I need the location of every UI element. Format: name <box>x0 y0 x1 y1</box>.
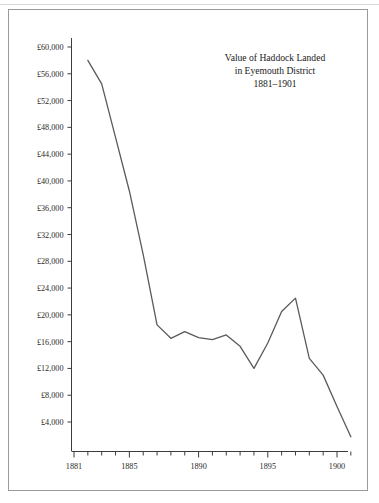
y-axis-tick-label: £28,000 <box>37 257 64 266</box>
y-axis-tick-label: £44,000 <box>37 150 64 159</box>
y-axis-tick-mark-group <box>68 47 72 422</box>
y-axis-tick-label: £12,000 <box>37 364 64 373</box>
x-axis-tick-label: 1885 <box>121 462 137 471</box>
y-axis-tick-label: £56,000 <box>37 70 64 79</box>
figure-root: £4,000£8,000£12,000£16,000£20,000£24,000… <box>0 0 379 503</box>
x-axis-tick-mark-group <box>74 452 351 458</box>
y-axis-tick-label: £20,000 <box>37 311 64 320</box>
x-axis-tick-label: 1890 <box>190 462 206 471</box>
chart-title: Value of Haddock Landed in Eyemouth Dist… <box>225 52 326 89</box>
y-axis-tick-label: £52,000 <box>37 97 64 106</box>
x-axis-tick-label-group: 18811885189018951900 <box>66 462 345 471</box>
y-axis-tick-label: £36,000 <box>37 204 64 213</box>
y-axis-tick-label: £60,000 <box>37 43 64 52</box>
x-axis-tick-label: 1881 <box>66 462 82 471</box>
x-axis-tick-label: 1900 <box>329 462 345 471</box>
haddock-value-data-line <box>88 60 351 436</box>
y-axis-tick-label: £48,000 <box>37 123 64 132</box>
y-axis-tick-label: £40,000 <box>37 177 64 186</box>
x-axis-tick-label: 1895 <box>260 462 276 471</box>
chart-title-line-1: Value of Haddock Landed <box>225 52 326 63</box>
chart-title-line-3: 1881–1901 <box>253 78 296 89</box>
haddock-value-line-chart: £4,000£8,000£12,000£16,000£20,000£24,000… <box>0 0 379 503</box>
y-axis-tick-label: £24,000 <box>37 284 64 293</box>
y-axis-tick-label: £16,000 <box>37 338 64 347</box>
y-axis-tick-label: £32,000 <box>37 231 64 240</box>
y-axis-tick-label-group: £4,000£8,000£12,000£16,000£20,000£24,000… <box>37 43 64 427</box>
y-axis-tick-label: £4,000 <box>41 418 64 427</box>
chart-title-line-2: in Eyemouth District <box>235 65 316 76</box>
y-axis-tick-label: £8,000 <box>41 391 64 400</box>
